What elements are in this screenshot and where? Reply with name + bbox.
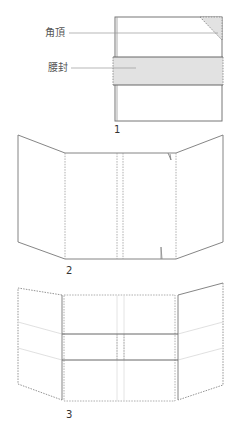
corner-label: 角頂 xyxy=(45,28,65,38)
diagram-1-number: 1 xyxy=(114,125,120,135)
band-label: 腰封 xyxy=(48,63,68,73)
belly-band xyxy=(113,57,223,85)
fold-diagrams xyxy=(0,0,236,443)
diagram-3-number: 3 xyxy=(66,410,72,420)
diagram-2-number: 2 xyxy=(66,266,72,276)
diagram-2-opened xyxy=(18,135,223,259)
diagram-1-cover xyxy=(69,17,223,121)
diagram-3-folded-with-band xyxy=(18,283,223,401)
